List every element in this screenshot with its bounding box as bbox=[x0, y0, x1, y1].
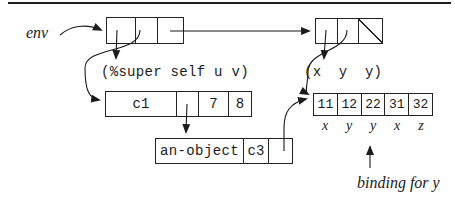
var-labels-row: x y y x z bbox=[313, 119, 433, 135]
env-left-pointer-cell-frame bbox=[136, 18, 158, 43]
class-frame-name-cell: c1 bbox=[106, 92, 177, 116]
binding-for-y-label: binding for y bbox=[357, 175, 440, 191]
var-label-y1: y bbox=[337, 119, 361, 135]
value-cell-4: 32 bbox=[409, 94, 432, 115]
var-label-z: z bbox=[409, 119, 433, 135]
env-label: env bbox=[26, 25, 48, 41]
var-label-x2: x bbox=[385, 119, 409, 135]
env-right-pointer-cell-formals bbox=[316, 19, 338, 43]
object-frame-box: an-object c3 bbox=[155, 138, 293, 164]
value-cell-2: 22 bbox=[362, 94, 386, 115]
top-rule bbox=[8, 2, 451, 4]
value-cell-1: 12 bbox=[338, 94, 362, 115]
object-frame-name-cell: an-object bbox=[156, 139, 244, 163]
arrow-env-to-record bbox=[60, 26, 101, 35]
object-frame-class-cell: c3 bbox=[244, 139, 269, 163]
class-frame-box: c1 7 8 bbox=[105, 91, 252, 117]
env-record-left bbox=[106, 17, 184, 44]
class-frame-pointer-cell bbox=[177, 92, 199, 116]
object-frame-pointer-cell bbox=[269, 139, 292, 163]
value-cell-0: 11 bbox=[314, 94, 338, 115]
right-formals-label: (x y y) bbox=[304, 65, 382, 79]
env-right-pointer-cell-values bbox=[338, 19, 359, 43]
nil-slash-cell bbox=[359, 19, 382, 43]
environment-diagram-figure: env (%super self u v) (x y y) c1 7 8 an-… bbox=[0, 0, 455, 207]
env-left-pointer-cell-formals bbox=[107, 18, 136, 43]
var-label-x1: x bbox=[313, 119, 337, 135]
value-cell-3: 31 bbox=[385, 94, 409, 115]
class-frame-value-cell-7: 7 bbox=[199, 92, 229, 116]
var-label-y2: y bbox=[361, 119, 385, 135]
left-formals-label: (%super self u v) bbox=[101, 65, 249, 79]
class-frame-value-cell-8: 8 bbox=[229, 92, 251, 116]
value-rib-box: 11 12 22 31 32 bbox=[313, 93, 433, 116]
env-record-right bbox=[315, 18, 383, 44]
env-left-pointer-cell-next bbox=[158, 18, 183, 43]
